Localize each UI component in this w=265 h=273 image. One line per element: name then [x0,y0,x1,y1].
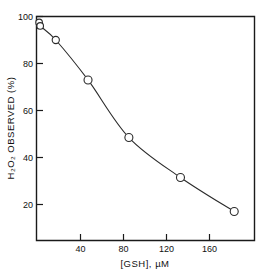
data-point-7 [230,208,238,216]
x-axis-title: [GSH], µM [120,258,169,269]
data-point-2 [37,23,44,30]
chart-canvas: 100 80 60 40 20 40 80 120 160 [GSH], µM … [0,0,265,273]
y-axis-title: H₂O₂ OBSERVED (%) [5,77,16,180]
data-curve [39,22,235,211]
x-tick-label-80: 80 [118,244,128,254]
y-tick-label-100: 100 [18,12,33,22]
x-tick-label-40: 40 [75,244,85,254]
axis-spines [37,17,255,241]
data-point-4 [84,76,92,84]
data-markers [36,19,238,215]
x-axis-tick-labels: 40 80 120 160 [75,244,217,254]
y-tick-label-20: 20 [23,200,33,210]
x-tick-label-160: 160 [202,244,217,254]
y-axis-ticks [37,17,44,205]
data-point-6 [176,173,184,181]
y-tick-label-60: 60 [23,106,33,116]
y-tick-label-80: 80 [23,59,33,69]
plot-frame [37,17,255,241]
data-point-3 [52,36,59,43]
y-axis-tick-labels: 100 80 60 40 20 [18,12,33,210]
y-tick-label-40: 40 [23,153,33,163]
data-point-5 [125,134,133,142]
figure-container: 100 80 60 40 20 40 80 120 160 [GSH], µM … [0,0,265,273]
x-tick-label-120: 120 [159,244,174,254]
x-axis-ticks [81,234,210,241]
